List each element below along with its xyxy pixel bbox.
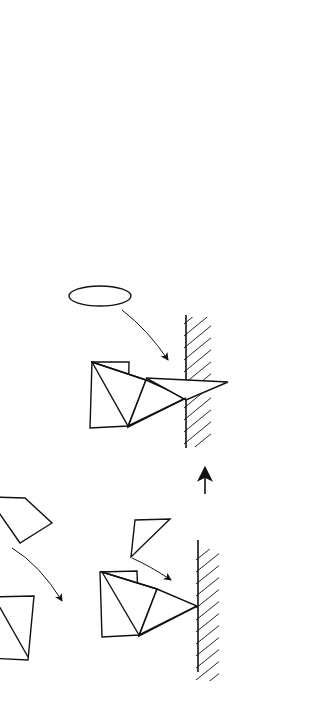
c5b6-fragment-edge	[0, 596, 34, 660]
mac-assembly-svg	[0, 0, 310, 707]
diagram-canvas	[0, 0, 310, 707]
c9-free-stage-2	[69, 286, 131, 306]
